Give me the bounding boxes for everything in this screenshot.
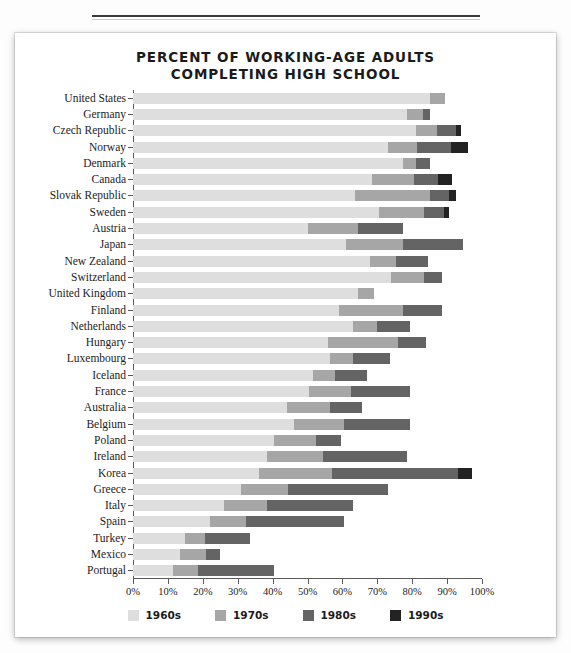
bar-segment-1970s	[339, 305, 404, 316]
stacked-bar	[133, 435, 341, 446]
stacked-bar	[133, 223, 403, 234]
bar-segment-1980s	[267, 500, 353, 511]
stacked-bar	[133, 468, 472, 479]
bar-segment-1970s	[287, 402, 331, 413]
legend-item-1970s[interactable]: 1970s	[215, 609, 268, 621]
y-axis-label-france: France	[6, 384, 126, 399]
bar-segment-1970s	[173, 565, 197, 576]
legend-item-1960s[interactable]: 1960s	[128, 609, 181, 621]
y-axis-label-belgium: Belgium	[6, 417, 126, 432]
y-axis-label-finland: Finland	[6, 303, 126, 318]
bar-segment-1970s	[294, 419, 345, 430]
bar-segment-1980s	[414, 174, 438, 185]
chart-row: New Zealand	[133, 254, 482, 269]
y-axis-label-poland: Poland	[6, 433, 126, 448]
y-axis-label-luxembourg: Luxembourg	[6, 351, 126, 366]
y-axis-label-japan: Japan	[6, 237, 126, 252]
bar-segment-1960s	[133, 419, 294, 430]
x-axis-tick	[168, 579, 169, 584]
y-axis-label-austria: Austria	[6, 221, 126, 236]
bar-segment-1970s	[358, 288, 374, 299]
bar-segment-1970s	[259, 468, 332, 479]
stacked-bar	[133, 419, 410, 430]
stacked-bar	[133, 386, 410, 397]
chart-row: Turkey	[133, 531, 482, 546]
bar-segment-1960s	[133, 288, 358, 299]
x-axis-tick	[203, 579, 204, 584]
y-axis-label-switzerland: Switzerland	[6, 270, 126, 285]
bar-segment-1980s	[206, 549, 220, 560]
bar-segment-1960s	[133, 451, 267, 462]
chart-row: Mexico	[133, 547, 482, 562]
bar-segment-1970s	[372, 174, 414, 185]
chart-row: Portugal	[133, 563, 482, 578]
bar-segment-1960s	[133, 516, 210, 527]
bar-segment-1960s	[133, 142, 388, 153]
stacked-bar	[133, 565, 274, 576]
bar-segment-1960s	[133, 500, 224, 511]
bar-segment-1960s	[133, 223, 308, 234]
legend-item-1990s[interactable]: 1990s	[390, 609, 443, 621]
stacked-bar	[133, 288, 374, 299]
chart-title-line-2: COMPLETING HIGH SCHOOL	[15, 66, 556, 83]
legend-label: 1980s	[321, 609, 356, 621]
stacked-bar	[133, 272, 442, 283]
chart-row: Korea	[133, 466, 482, 481]
stacked-bar	[133, 484, 388, 495]
x-axis-tick	[342, 579, 343, 584]
bar-segment-1980s	[377, 321, 410, 332]
bar-segment-1980s	[198, 565, 275, 576]
bar-segment-1960s	[133, 272, 391, 283]
bar-segment-1990s	[449, 190, 456, 201]
bar-segment-1960s	[133, 337, 328, 348]
y-axis-label-iceland: Iceland	[6, 368, 126, 383]
bar-segment-1980s	[396, 256, 427, 267]
bar-segment-1960s	[133, 533, 185, 544]
legend-label: 1970s	[233, 609, 268, 621]
chart-row: Norway	[133, 140, 482, 155]
legend-item-1980s[interactable]: 1980s	[303, 609, 356, 621]
chart-row: Japan	[133, 237, 482, 252]
chart-page: PERCENT OF WORKING-AGE ADULTS COMPLETING…	[0, 0, 571, 653]
bar-segment-1980s	[358, 223, 403, 234]
y-axis-label-turkey: Turkey	[6, 531, 126, 546]
bar-segment-1980s	[332, 468, 458, 479]
bar-segment-1970s	[370, 256, 396, 267]
stacked-bar	[133, 239, 463, 250]
bar-segment-1960s	[133, 239, 346, 250]
bar-segment-1960s	[133, 386, 309, 397]
bar-segment-1970s	[274, 435, 316, 446]
bar-segment-1980s	[316, 435, 340, 446]
x-axis-tick	[308, 579, 309, 584]
bar-segment-1970s	[210, 516, 247, 527]
chart-row: Germany	[133, 107, 482, 122]
stacked-bar	[133, 337, 426, 348]
bar-segment-1980s	[351, 386, 410, 397]
bar-segment-1970s	[355, 190, 430, 201]
y-axis-label-australia: Australia	[6, 400, 126, 415]
chart-title-line-1: PERCENT OF WORKING-AGE ADULTS	[15, 49, 556, 66]
chart-row: Slovak Republic	[133, 188, 482, 203]
stacked-bar	[133, 402, 362, 413]
legend-label: 1960s	[146, 609, 181, 621]
bar-segment-1980s	[403, 239, 462, 250]
bar-segment-1970s	[328, 337, 398, 348]
bar-segment-1960s	[133, 435, 274, 446]
y-axis-label-greece: Greece	[6, 482, 126, 497]
chart-row: Sweden	[133, 205, 482, 220]
stacked-bar	[133, 370, 367, 381]
y-axis-label-netherlands: Netherlands	[6, 319, 126, 334]
plot-area: United StatesGermanyCzech RepublicNorway…	[133, 90, 482, 579]
bar-segment-1980s	[430, 190, 449, 201]
bar-segment-1980s	[246, 516, 344, 527]
x-axis-tick	[447, 579, 448, 584]
chart-row: Hungary	[133, 335, 482, 350]
y-axis-label-korea: Korea	[6, 466, 126, 481]
bar-segment-1980s	[424, 207, 443, 218]
chart-row: Ireland	[133, 449, 482, 464]
bar-segment-1970s	[267, 451, 323, 462]
stacked-bar	[133, 158, 430, 169]
bar-segment-1960s	[133, 125, 416, 136]
bar-segment-1960s	[133, 549, 180, 560]
x-axis-tick	[133, 579, 134, 584]
